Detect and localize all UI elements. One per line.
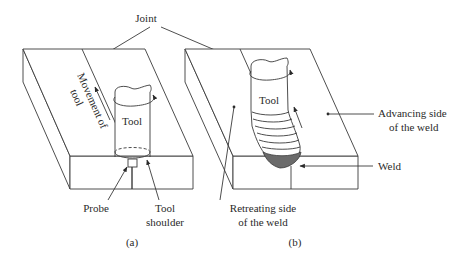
caption-a: (a) [126,236,139,249]
tool-label-b: Tool [259,94,279,106]
retreating-label-line2: of the weld [238,216,288,228]
joint-label: Joint [135,12,156,24]
probe-label: Probe [83,202,109,214]
retreating-label-line1: Retreating side [230,202,296,214]
shoulder-label-line1: Tool [155,202,175,214]
advancing-label-line2: of the weld [389,121,439,133]
weld-label: Weld [378,160,401,172]
tool-label-a: Tool [122,115,142,127]
panel-b: Tool Advancing side of the weld Weld Ret… [185,49,447,249]
caption-b: (b) [289,236,302,249]
advancing-label-line1: Advancing side [378,107,447,119]
fsw-diagram: Joint Movement of tool [0,0,466,264]
panel-a: Movement of tool Tool Probe Tool shoulde… [23,49,193,249]
shoulder-label-line2: shoulder [146,216,184,228]
